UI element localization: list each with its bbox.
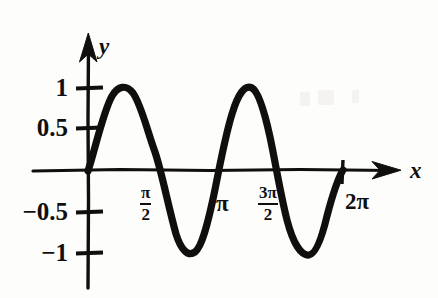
fraction-numerator: π [140, 184, 151, 202]
y-tick-1 [76, 88, 103, 89]
x-tick-label-pi-over-2: π 2 [140, 184, 151, 224]
fraction-denominator: 2 [258, 206, 278, 224]
y-tick-label-1: 1 [38, 75, 68, 100]
x-tick-label-pi: π [216, 192, 229, 215]
sine-curve-figure: 1 0.5 −0.5 −1 π 2 π 3π 2 2π x y [0, 0, 438, 298]
x-tick-label-2pi: 2π [345, 190, 369, 213]
y-tick-label-0-5: 0.5 [14, 115, 68, 140]
x-tick-label-3pi-over-2: 3π 2 [258, 184, 278, 224]
x-axis-label: x [410, 159, 422, 182]
fraction-denominator: 2 [140, 206, 151, 224]
fraction-numerator: 3π [258, 184, 278, 202]
y-tick-label-neg-1: −1 [25, 240, 68, 265]
y-tick-label-neg-0-5: −0.5 [3, 199, 68, 224]
y-tick-neg0.5 [76, 212, 103, 213]
y-tick-neg1 [76, 253, 103, 254]
y-axis-label: y [99, 35, 109, 58]
